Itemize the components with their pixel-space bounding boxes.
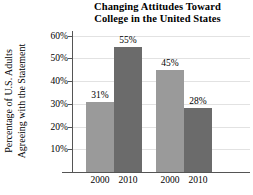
gridline <box>72 36 250 37</box>
y-axis-title-text: Percentage of U.S. Adults Agreeing with … <box>3 43 28 158</box>
y-tick-mark <box>68 127 72 128</box>
y-tick-mark <box>68 58 72 59</box>
y-tick-mark <box>68 149 72 150</box>
y-axis-title-line-2: Agreeing with the Statement <box>15 43 28 158</box>
y-tick-mark <box>68 81 72 82</box>
y-axis-line <box>72 31 73 172</box>
y-tick-mark <box>68 36 72 37</box>
y-axis-tick-labels: 10%20%30%40%50%60% <box>28 28 68 173</box>
x-tick-label: 2010 <box>119 175 138 186</box>
bar-value-label: 55% <box>119 35 136 46</box>
plot-area: 31%55%45%28% <box>72 31 250 172</box>
y-axis-title: Percentage of U.S. Adults Agreeing with … <box>0 28 30 173</box>
chart-title: Changing Attitudes Toward College in the… <box>62 1 253 24</box>
bar-chart-figure: Changing Attitudes Toward College in the… <box>0 0 253 195</box>
bar: 28% <box>184 108 212 172</box>
y-tick-label: 30% <box>28 99 68 109</box>
x-axis-line <box>62 172 250 173</box>
bar: 45% <box>156 70 184 172</box>
y-tick-label: 60% <box>28 31 68 41</box>
y-tick-mark <box>68 104 72 105</box>
chart-title-line-2: College in the United States <box>62 13 253 25</box>
y-axis-title-line-1: Percentage of U.S. Adults <box>3 43 16 158</box>
bar: 31% <box>86 102 114 173</box>
bar-value-label: 31% <box>91 90 108 101</box>
chart-title-line-1: Changing Attitudes Toward <box>62 1 253 13</box>
y-tick-label: 20% <box>28 122 68 132</box>
x-tick-label: 2000 <box>161 175 180 186</box>
x-tick-label: 2010 <box>189 175 208 186</box>
x-tick-label: 2000 <box>91 175 110 186</box>
bar-value-label: 45% <box>161 58 178 69</box>
y-tick-label: 40% <box>28 76 68 86</box>
y-tick-label: 10% <box>28 144 68 154</box>
bar: 55% <box>114 47 142 172</box>
bar-value-label: 28% <box>189 96 206 107</box>
x-axis-tick-labels: 2000201020002010 <box>72 175 250 191</box>
y-tick-label: 50% <box>28 53 68 63</box>
